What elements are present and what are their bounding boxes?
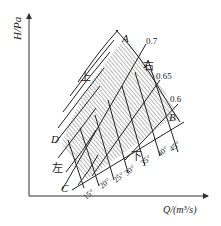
direction-label-right: 右 <box>143 59 154 72</box>
x-axis-label: Q/(m³/s) <box>163 204 197 216</box>
blade-angle-label-1: 20° <box>98 176 112 190</box>
direction-label-up: 上 <box>80 71 91 83</box>
fan-characteristic-diagram: H/Pa Q/(m³/s) A B C D 上 右 下 左 0.7 0.65 0… <box>0 0 221 226</box>
y-axis-label: H/Pa <box>11 16 23 41</box>
efficiency-label-1: 0.65 <box>156 71 172 81</box>
corner-label-c: C <box>61 182 69 194</box>
blade-angle-label-3: 30° <box>123 163 137 177</box>
blade-angle-label-0: 15° <box>82 187 96 201</box>
efficiency-label-2: 0.6 <box>170 94 182 104</box>
corner-label-b: B <box>169 111 176 123</box>
direction-label-left: 左 <box>52 162 63 174</box>
efficiency-label-0: 0.7 <box>146 36 158 46</box>
corner-label-d: D <box>50 133 59 145</box>
corner-label-a: A <box>121 32 129 44</box>
